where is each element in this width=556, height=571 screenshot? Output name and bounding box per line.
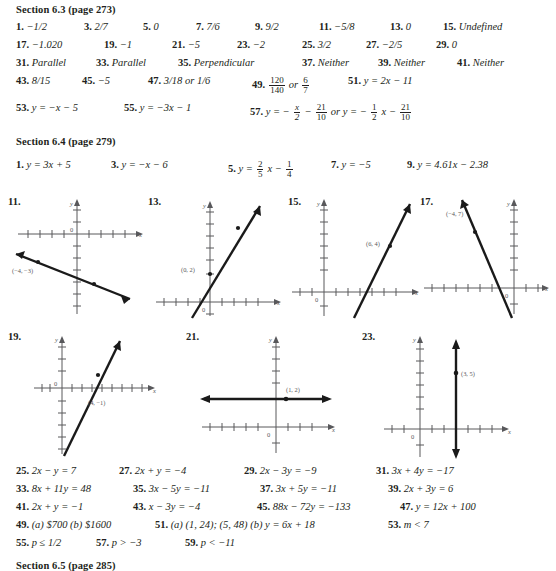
x-axis-label: x — [331, 426, 335, 433]
answer-number: 49. — [16, 519, 29, 530]
graph-label: 11. — [8, 196, 21, 207]
answer-value: Parallel — [109, 57, 146, 68]
answer-value: 3/18 or 1/6 — [161, 75, 210, 86]
answer-number: 57. — [250, 106, 263, 117]
answer-item: 53.y = −x − 5 — [16, 103, 78, 114]
graph-15: 15. x y 0 (6, 4) — [288, 196, 428, 318]
answer-item: 33.8x + 11y = 48 — [16, 484, 91, 495]
answer-value: 9/2 — [263, 21, 279, 32]
answer-number: 51. — [155, 519, 168, 530]
answer-value: y = 2x − 11 — [361, 75, 412, 86]
answer-item: 49.120140 or 67 — [252, 76, 310, 95]
graph-label: 15. — [288, 196, 301, 207]
x-axis-label: x — [507, 428, 511, 435]
answer-value: −1.020 — [29, 39, 62, 50]
answer-number: 13. — [390, 21, 403, 32]
answer-number: 3. — [84, 21, 92, 32]
answer-number: 27. — [119, 465, 132, 476]
answer-item: 55.y = −3x − 1 — [124, 103, 191, 114]
answer-number: 1. — [16, 21, 24, 32]
answer-value: y = −5 — [339, 159, 371, 170]
answer-item: 17.−1.020 — [16, 40, 62, 51]
answer-number: 7. — [196, 21, 204, 32]
answer-number: 43. — [133, 501, 146, 512]
answer-value: Parallel — [29, 57, 66, 68]
answer-number: 33. — [96, 57, 109, 68]
y-axis-label: y — [412, 336, 416, 343]
answer-item: 19.−1 — [104, 40, 132, 51]
answer-value: 2/7 — [92, 21, 108, 32]
answer-number: 55. — [16, 537, 29, 548]
answer-value: 3x + 4y = −17 — [389, 465, 454, 476]
answer-item: 39.Neither — [378, 58, 425, 69]
point-label: (3, 5) — [461, 370, 475, 378]
answer-item: 5.y = 25 x − 14 — [228, 160, 294, 179]
x-axis-label: x — [414, 289, 418, 296]
answer-item: 39.2x + 3y = 6 — [388, 484, 453, 495]
graph-15-svg: x y 0 (6, 4) — [288, 196, 428, 318]
answer-value: (a) (1, 24); (5, 48) (b) y = 6x + 18 — [168, 519, 315, 530]
answer-number: 41. — [457, 57, 470, 68]
answer-number: 37. — [302, 57, 315, 68]
answer-value: 3/2 — [315, 39, 331, 50]
x-axis-label: x — [276, 299, 280, 306]
answer-number: 43. — [16, 75, 29, 86]
answer-value: Neither — [315, 57, 349, 68]
fraction: 2110 — [400, 103, 411, 122]
answer-item: 7.y = −5 — [331, 160, 371, 171]
graph-13-svg: x y 0 (0, 2) — [148, 196, 288, 318]
answer-item: 9.9/2 — [255, 22, 279, 33]
answer-item: 27.−2/5 — [366, 40, 402, 51]
answer-value: 8x + 11y = 48 — [29, 483, 91, 494]
answer-number: 1. — [16, 159, 24, 170]
point-label: (6, 4) — [366, 240, 380, 248]
graph-21: 21. x y 0 (1, 2) — [186, 331, 346, 456]
origin-label: 0 — [70, 226, 73, 233]
fraction: 2110 — [316, 103, 327, 122]
answer-number: 35. — [133, 483, 146, 494]
answer-value: 2x + y = −1 — [29, 501, 83, 512]
section-heading-6-5: Section 6.5 (page 285) — [16, 560, 116, 571]
graph-label: 13. — [148, 196, 161, 207]
answer-value: y = 12x + 100 — [413, 501, 476, 512]
answer-number: 9. — [255, 21, 263, 32]
graph-17: 17. x y 0 (−4, 7) — [420, 196, 556, 318]
answer-item: 5.0 — [143, 22, 159, 33]
answer-item: 43.x − 3y = −4 — [133, 502, 200, 513]
point-label: (0, 2) — [181, 266, 195, 274]
answer-item: 51.(a) (1, 24); (5, 48) (b) y = 6x + 18 — [155, 520, 315, 531]
answer-item: 9.y = 4.61x − 2.38 — [407, 160, 488, 171]
answer-value: 3x + 5y = −11 — [273, 483, 337, 494]
answer-item: 13.0 — [390, 22, 411, 33]
graph-label: 19. — [8, 331, 21, 342]
answer-number: 57. — [96, 537, 109, 548]
answer-number: 29. — [244, 465, 257, 476]
answer-number: 59. — [185, 537, 198, 548]
origin-label: 0 — [505, 292, 508, 299]
point-label: (−4, −3) — [12, 267, 33, 275]
answer-key-page: Section 6.3 (page 273) 1.−1/23.2/75.07.7… — [0, 0, 556, 571]
answer-item: 27.2x + y = −4 — [119, 466, 186, 477]
origin-label: 0 — [54, 380, 57, 387]
answer-value: 2x − 3y = −9 — [257, 465, 316, 476]
answer-value: 2x − y = 7 — [29, 465, 76, 476]
answer-value: 0 — [151, 21, 159, 32]
answer-value: 7/6 — [204, 21, 220, 32]
x-axis-label: x — [152, 387, 156, 394]
point-label: (1, 2) — [286, 386, 300, 394]
answer-value: −1/2 — [24, 21, 47, 32]
answer-item: 1.y = 3x + 5 — [16, 160, 71, 171]
answer-value: y = 4.61x − 2.38 — [415, 159, 488, 170]
answer-item: 47.y = 12x + 100 — [400, 502, 476, 513]
x-axis-label: x — [544, 285, 548, 292]
y-axis-label: y — [506, 200, 510, 207]
answer-value: −5 — [95, 75, 110, 86]
answer-number: 53. — [16, 102, 29, 113]
answer-item: 45.88x − 72y = −133 — [257, 502, 350, 513]
answer-item: 21.−5 — [172, 40, 200, 51]
graph-label: 23. — [362, 331, 375, 342]
fraction: 120140 — [269, 76, 285, 95]
section-heading-6-3: Section 6.3 (page 273) — [16, 4, 116, 15]
answer-number: 49. — [252, 79, 265, 90]
point-label: (4, −1) — [88, 399, 105, 407]
